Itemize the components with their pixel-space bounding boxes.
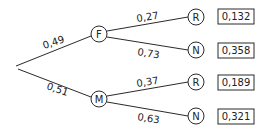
- prob-M: 0,51: [45, 80, 70, 97]
- result-F-R: 0,132: [222, 11, 251, 22]
- probability-tree-diagram: 0,49 0,51 F M 0,27 0,73 0,37 0,63 R N R …: [0, 0, 263, 134]
- prob-F-N: 0,73: [137, 46, 161, 60]
- result-M-R: 0,189: [222, 77, 251, 88]
- prob-M-R: 0,37: [136, 75, 160, 89]
- result-F-N: 0,358: [222, 45, 251, 56]
- node-M-N-label: N: [192, 111, 199, 122]
- node-F-N-label: N: [192, 45, 199, 56]
- node-F-R-label: R: [193, 12, 200, 23]
- node-M-label: M: [95, 94, 104, 105]
- node-M-R-label: R: [193, 77, 200, 88]
- prob-F-R: 0,27: [136, 10, 160, 24]
- prob-F: 0,49: [41, 34, 66, 51]
- result-M-N: 0,321: [222, 111, 251, 122]
- prob-M-N: 0,63: [137, 111, 161, 125]
- node-F-label: F: [96, 29, 102, 40]
